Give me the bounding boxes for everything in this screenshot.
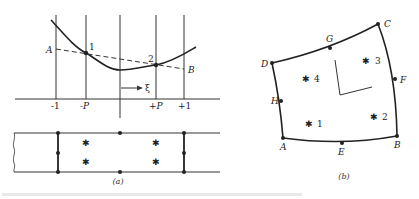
label-b: B <box>393 140 401 150</box>
gauss-point-star-icon: ✱ <box>302 74 310 84</box>
gauss-label-2: 2 <box>382 112 388 122</box>
tick-minus-p: -P <box>80 101 90 111</box>
sample-point-1 <box>84 51 88 55</box>
node <box>56 170 60 174</box>
label-h: H <box>270 96 279 106</box>
gauss-label-4: 4 <box>314 74 320 84</box>
label-f: F <box>399 75 407 85</box>
label-a: A <box>45 45 53 55</box>
node <box>182 131 186 135</box>
xi-arrow-icon <box>137 86 143 91</box>
label-b: B <box>187 65 195 75</box>
node <box>56 131 60 135</box>
figure-a-plot: A B 1 2 ξ -1 -P +P +1 <box>15 15 220 118</box>
sample-point-2 <box>154 63 158 67</box>
node <box>56 151 60 155</box>
figure-a-strip: ✱ ✱ ✱ ✱ (a) <box>13 131 220 186</box>
gauss-point-star-icon: ✱ <box>152 138 160 148</box>
xi-label: ξ <box>145 83 150 93</box>
node <box>182 170 186 174</box>
gauss-point-star-icon: ✱ <box>362 56 370 66</box>
gauss-point-star-icon: ✱ <box>305 119 313 129</box>
figure-canvas: A B 1 2 ξ -1 -P +P +1 ✱ ✱ ✱ ✱ <box>0 0 419 199</box>
label-point-2: 2 <box>148 54 154 64</box>
figure-b-element: C G D H A E B F ✱ 3 ✱ 4 ✱ 1 ✱ 2 (b) <box>260 19 407 181</box>
node-b <box>395 134 399 138</box>
node <box>118 170 122 174</box>
node <box>182 151 186 155</box>
label-g: G <box>326 34 333 44</box>
node-h <box>279 99 283 103</box>
gauss-label-1: 1 <box>317 119 323 129</box>
edge-bea <box>283 136 397 142</box>
tick-plus-p: +P <box>149 101 164 111</box>
label-point-1: 1 <box>89 42 95 52</box>
label-c: C <box>384 19 391 29</box>
tick-plus-1: +1 <box>178 101 191 111</box>
node-e <box>340 141 344 145</box>
node-g <box>328 46 332 50</box>
label-a: A <box>279 142 287 152</box>
node <box>118 131 122 135</box>
figure-caption-blurred <box>2 193 302 196</box>
caption-b: (b) <box>338 172 349 181</box>
gauss-point-star-icon: ✱ <box>82 157 90 167</box>
node-c <box>376 22 380 26</box>
label-e: E <box>337 147 345 157</box>
gauss-point-star-icon: ✱ <box>82 138 90 148</box>
break-line <box>13 133 14 172</box>
tick-minus-1: -1 <box>51 101 60 111</box>
quadratic-curve <box>51 20 196 70</box>
gauss-label-3: 3 <box>375 56 381 66</box>
node-d <box>270 61 274 65</box>
label-d: D <box>260 59 268 69</box>
node-f <box>393 77 397 81</box>
gauss-point-star-icon: ✱ <box>152 157 160 167</box>
gauss-point-star-icon: ✱ <box>370 112 378 122</box>
node-a <box>281 136 285 140</box>
caption-a: (a) <box>112 177 123 186</box>
